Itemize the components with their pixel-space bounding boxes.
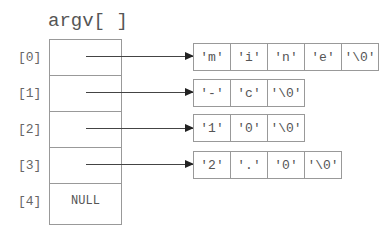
char-cell: '0' xyxy=(268,152,305,178)
index-label-4: [4] xyxy=(18,194,41,209)
char-cell: '\0' xyxy=(268,80,304,106)
char-cell: '-' xyxy=(194,80,231,106)
char-cell: '\0' xyxy=(342,44,378,70)
argv-title: argv[ ] xyxy=(48,10,128,32)
char-cell: 'c' xyxy=(231,80,268,106)
char-cell: '1' xyxy=(194,115,231,141)
pointer-arrow-2 xyxy=(86,128,193,129)
char-cell: 'm' xyxy=(194,44,231,70)
char-cell: 'n' xyxy=(268,44,305,70)
null-value: NULL xyxy=(50,194,121,208)
char-cell: 'e' xyxy=(305,44,342,70)
pointer-arrow-1 xyxy=(86,92,193,93)
string-1: '-' 'c' '\0' xyxy=(193,79,305,107)
argv-slot-1 xyxy=(50,76,121,112)
index-label-0: [0] xyxy=(18,50,41,65)
string-0: 'm' 'i' 'n' 'e' '\0' xyxy=(193,43,379,71)
pointer-arrow-0 xyxy=(86,56,193,57)
argv-slot-0 xyxy=(50,40,121,76)
char-cell: '.' xyxy=(231,152,268,178)
char-cell: '\0' xyxy=(268,115,304,141)
index-label-2: [2] xyxy=(18,122,41,137)
argv-array: NULL xyxy=(49,39,122,225)
string-3: '2' '.' '0' '\0' xyxy=(193,151,342,179)
char-cell: '2' xyxy=(194,152,231,178)
pointer-arrow-3 xyxy=(86,164,193,165)
argv-slot-3 xyxy=(50,148,121,184)
char-cell: '0' xyxy=(231,115,268,141)
argv-slot-2 xyxy=(50,112,121,148)
index-label-1: [1] xyxy=(18,86,41,101)
char-cell: 'i' xyxy=(231,44,268,70)
string-2: '1' '0' '\0' xyxy=(193,114,305,142)
char-cell: '\0' xyxy=(305,152,341,178)
index-label-3: [3] xyxy=(18,158,41,173)
